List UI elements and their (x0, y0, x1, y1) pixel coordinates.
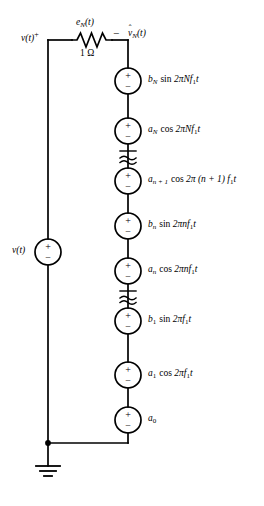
arg-bn: 2πnf (173, 219, 190, 229)
minus-vt: − (45, 252, 51, 263)
arg-a1: 2πf (174, 368, 186, 378)
minus-bn: − (125, 226, 131, 237)
source-label-a1: a1cos 2πf1t (148, 369, 193, 380)
plus-an: + (125, 260, 131, 271)
input-terminal-label: v(t)+ (21, 31, 39, 44)
func-a1: cos (159, 368, 172, 378)
minus-aN: − (125, 131, 131, 142)
argtail-b1: t (188, 314, 191, 324)
minus-bN: − (125, 81, 131, 92)
source-label-aN: aNcos 2πNf1t (148, 125, 200, 136)
resistor-label-arg: (t) (85, 17, 94, 27)
resistor-value: 1 Ω (80, 49, 94, 59)
minus-a0: − (125, 420, 131, 431)
input-source-label: v(t) (12, 246, 25, 256)
source-label-a0: a0 (148, 414, 156, 425)
minus-b1: − (125, 321, 131, 332)
output-voltage-label: ˆvN(t) (128, 29, 146, 40)
circuit-diagram: + − + − + − + − + − + − + − + − + − v(t)… (0, 0, 264, 506)
coefsub-b1: 1 (153, 318, 157, 326)
func-aN: cos (160, 124, 173, 134)
coefsub-an1: n + 1 (153, 178, 168, 186)
func-b1: sin (159, 314, 170, 324)
plus-b1: + (125, 310, 131, 321)
minus-an: − (125, 271, 131, 282)
coefsub-bn: n (153, 223, 157, 231)
argtail-bn: t (193, 219, 196, 229)
arg-bN: 2πNf (174, 74, 193, 84)
plus-bn: + (125, 215, 131, 226)
argtail-a1: t (190, 368, 193, 378)
ground-symbol (36, 466, 60, 476)
minus-a1: − (125, 375, 131, 386)
output-hat-accent: ˆ (129, 25, 132, 33)
func-an1: cos (171, 174, 184, 184)
coefsub-bN: N (153, 78, 158, 86)
plus-aN: + (125, 120, 131, 131)
input-terminal-name: v(t) (21, 33, 34, 43)
argtail-bN: t (196, 74, 199, 84)
input-source-name: v(t) (12, 245, 25, 255)
source-label-an: ancos 2πnf1t (148, 265, 197, 276)
output-polarity: − (113, 28, 119, 40)
arg-aN: 2πNf (175, 124, 194, 134)
argtail-an1: t (233, 174, 236, 184)
argtail-aN: t (197, 124, 200, 134)
plus-an1: + (125, 170, 131, 181)
plus-a1: + (125, 364, 131, 375)
argtail-an: t (195, 264, 198, 274)
schematic-canvas: + − + − + − + − + − + − + − + − + − (0, 0, 264, 506)
arg-an: 2πnf (174, 264, 191, 274)
coefsub-a1: 1 (153, 372, 157, 380)
coefsub-aN: N (153, 128, 158, 136)
resistor-zigzag (72, 33, 112, 47)
coefsub-a0: 0 (153, 417, 157, 425)
minus-an1: − (125, 181, 131, 192)
source-label-b1: b1sin 2πf1t (148, 315, 191, 326)
source-label-bn: bnsin 2πnf1t (148, 220, 196, 231)
input-terminal-polarity: + (34, 30, 39, 39)
plus-bN: + (125, 70, 131, 81)
resistor-label: eN(t) (76, 18, 94, 29)
output-name-arg: (t) (137, 28, 146, 38)
source-label-an1: an + 1cos 2π (n + 1) f1t (148, 175, 236, 186)
plus-vt: + (45, 241, 51, 252)
arg-an1: 2π (n + 1) f (186, 174, 230, 184)
junction-node-dot (45, 440, 51, 446)
func-an: cos (159, 264, 172, 274)
func-bN: sin (160, 74, 171, 84)
func-bn: sin (159, 219, 170, 229)
coefsub-an: n (153, 268, 157, 276)
polarity-glyphs: + − + − + − + − + − + − + − + − + − (45, 70, 131, 431)
arg-b1: 2πf (173, 314, 185, 324)
plus-a0: + (125, 409, 131, 420)
source-label-bN: bNsin 2πNf1t (148, 75, 199, 86)
